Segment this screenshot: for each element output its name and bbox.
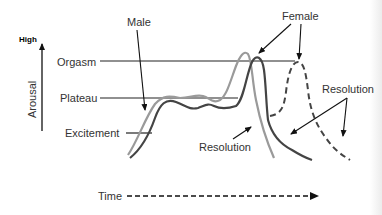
x-axis: Time [98,190,319,202]
resolution-right-arrow-1 [291,98,347,134]
female-pointer-arrow-1 [259,24,291,53]
stage-label-excitement: Excitement [65,127,119,139]
annotation-resolution-right: Resolution [322,83,374,95]
stage-label-plateau: Plateau [60,92,97,104]
annotation-resolution-center: Resolution [199,141,251,153]
y-axis: High Arousal [19,35,42,131]
annotation-female: Female [282,10,319,22]
female-dashed-curve [270,62,350,160]
female-pointer-arrow-2 [299,24,301,59]
resolution-center-arrow [233,127,251,139]
resolution-right-arrow-2 [343,98,347,136]
y-axis-label: Arousal [26,81,38,118]
x-axis-label: Time [98,190,122,202]
y-axis-high-label: High [19,35,37,44]
stage-label-orgasm: Orgasm [57,56,96,68]
annotation-male: Male [127,16,151,28]
response-cycle-diagram: High Arousal Orgasm Plateau Excitement M… [0,0,382,215]
x-axis-arrowhead-icon [310,192,319,200]
